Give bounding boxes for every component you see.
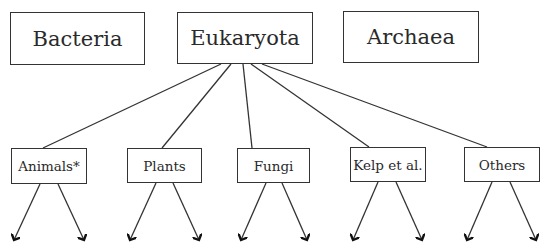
node-label: Bacteria <box>33 27 123 51</box>
node-fungi: Fungi <box>237 148 310 183</box>
descendant-arrows <box>14 182 536 240</box>
node-label: Eukaryota <box>190 26 300 50</box>
node-bacteria: Bacteria <box>10 12 145 65</box>
node-label: Archaea <box>367 25 455 49</box>
node-label: Animals* <box>18 158 80 174</box>
node-animals: Animals* <box>11 148 87 184</box>
node-plants: Plants <box>127 148 202 183</box>
node-kelp: Kelp et al. <box>350 147 426 182</box>
node-archaea: Archaea <box>343 11 479 63</box>
node-label: Plants <box>143 158 186 174</box>
node-others: Others <box>464 147 540 182</box>
node-eukaryota: Eukaryota <box>177 12 313 64</box>
eukaryota-edges <box>43 64 487 148</box>
node-label: Fungi <box>254 158 294 174</box>
node-label: Others <box>479 157 526 173</box>
node-label: Kelp et al. <box>353 157 422 173</box>
